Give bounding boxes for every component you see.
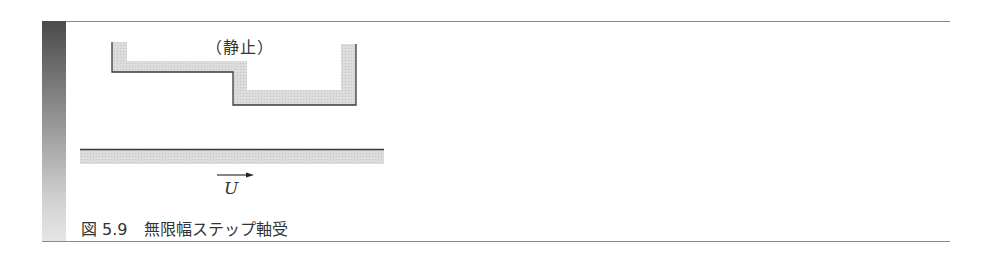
stationary-label: （静止） [206, 34, 274, 58]
velocity-label: U [224, 178, 238, 198]
velocity-arrow-icon [217, 173, 254, 178]
bottom-rule [42, 241, 950, 242]
figure-frame: （静止） U 図 5.9 無限幅ステップ軸受 [0, 0, 981, 255]
moving-plate [80, 150, 384, 165]
figure-caption: 図 5.9 無限幅ステップ軸受 [81, 216, 288, 240]
